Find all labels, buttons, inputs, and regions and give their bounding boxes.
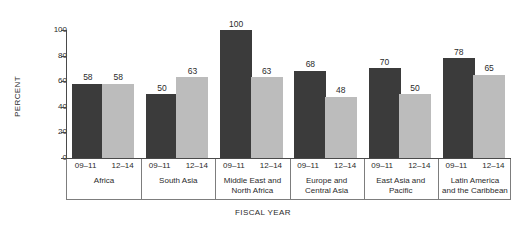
category-cell: 09–1112–14Africa [67, 159, 141, 200]
period-labels: 09–1112–14 [290, 162, 364, 170]
category-label: Middle East andNorth Africa [215, 176, 289, 196]
category-label: Africa [67, 176, 141, 186]
period-label: 09–11 [290, 162, 327, 170]
category-label: Europe andCentral Asia [290, 176, 364, 196]
bar-value-label: 63 [243, 67, 291, 76]
period-label: 09–11 [141, 162, 178, 170]
period-label: 12–14 [178, 162, 215, 170]
period-labels: 09–1112–14 [215, 162, 289, 170]
bar-group-item: 58 [102, 84, 134, 158]
bar-value-label: 48 [317, 86, 365, 95]
bar-group-item: 100 [220, 30, 252, 158]
bar [473, 75, 505, 158]
bar [146, 94, 178, 158]
period-label: 09–11 [215, 162, 252, 170]
bar [72, 84, 104, 158]
period-labels: 09–1112–14 [438, 162, 512, 170]
y-axis-title: PERCENT [8, 56, 26, 136]
bar-value-label: 58 [94, 73, 142, 82]
period-labels: 09–1112–14 [67, 162, 141, 170]
category-divider [141, 159, 142, 200]
bar-group-item: 63 [251, 77, 283, 158]
bar-group-item: 68 [294, 71, 326, 158]
category-divider [364, 159, 365, 200]
category-label: Latin Americaand the Caribbean [438, 176, 512, 196]
bar [325, 97, 357, 158]
category-cell: 09–1112–14Latin Americaand the Caribbean [438, 159, 512, 200]
category-divider [215, 159, 216, 200]
bar [102, 84, 134, 158]
category-divider [290, 159, 291, 200]
bar-value-label: 65 [465, 64, 513, 73]
bar-chart: PERCENT 100806040200 5858506310063684870… [0, 0, 526, 237]
bar-group-item: 50 [399, 94, 431, 158]
bar-group-item: 63 [176, 77, 208, 158]
period-label: 12–14 [475, 162, 512, 170]
bar-value-label: 100 [212, 20, 260, 29]
category-cell: 09–1112–14Middle East andNorth Africa [215, 159, 289, 200]
period-label: 09–11 [364, 162, 401, 170]
plot-area: 5858506310063684870507865 [66, 30, 511, 158]
period-label: 12–14 [252, 162, 289, 170]
category-label: East Asia andPacific [364, 176, 438, 196]
period-label: 09–11 [438, 162, 475, 170]
bar-group-item: 65 [473, 75, 505, 158]
bar-value-label: 78 [435, 48, 483, 57]
bar [443, 58, 475, 158]
period-labels: 09–1112–14 [141, 162, 215, 170]
bar [176, 77, 208, 158]
bar-value-label: 70 [361, 58, 409, 67]
category-cell: 09–1112–14South Asia [141, 159, 215, 200]
bar [369, 68, 401, 158]
bar-group-item: 48 [325, 97, 357, 158]
period-labels: 09–1112–14 [364, 162, 438, 170]
bar [251, 77, 283, 158]
bar-value-label: 68 [286, 60, 334, 69]
bar [220, 30, 252, 158]
bar-value-label: 63 [168, 67, 216, 76]
period-label: 12–14 [327, 162, 364, 170]
bar-group-item: 50 [146, 94, 178, 158]
category-cell: 09–1112–14East Asia andPacific [364, 159, 438, 200]
period-label: 09–11 [67, 162, 104, 170]
bar-group-item: 58 [72, 84, 104, 158]
period-label: 12–14 [104, 162, 141, 170]
bar [399, 94, 431, 158]
category-label: South Asia [141, 176, 215, 186]
bar-group-item: 70 [369, 68, 401, 158]
category-table: 09–1112–14Africa09–1112–14South Asia09–1… [66, 159, 511, 200]
bar-value-label: 50 [391, 84, 439, 93]
x-axis-title: FISCAL YEAR [0, 208, 526, 217]
category-cell: 09–1112–14Europe andCentral Asia [290, 159, 364, 200]
period-label: 12–14 [401, 162, 438, 170]
category-divider [438, 159, 439, 200]
bar [294, 71, 326, 158]
bar-group-item: 78 [443, 58, 475, 158]
